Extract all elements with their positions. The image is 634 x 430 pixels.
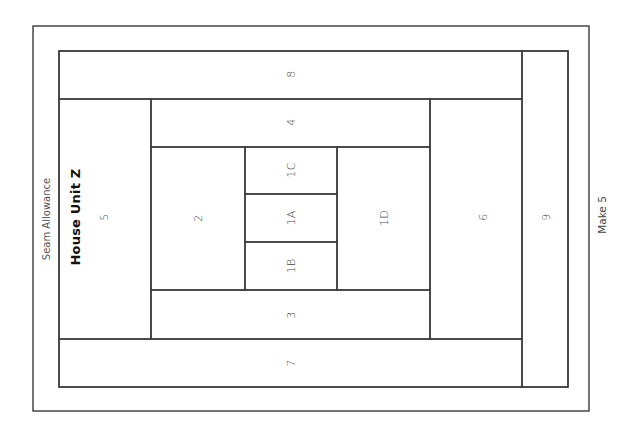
piece-9-label: 9: [541, 213, 552, 220]
piece-1a-label: 1A: [286, 210, 297, 225]
piece-1c-label: 1C: [286, 162, 297, 177]
piece-1d-label: 1D: [379, 210, 390, 226]
piece-4-label: 4: [286, 118, 297, 125]
piece-3-label: 3: [286, 311, 297, 318]
piece-2-label: 2: [193, 214, 204, 221]
block-title: House Unit Z: [69, 169, 82, 266]
piece-7-label: 7: [286, 359, 297, 366]
seam-allowance-border: [33, 26, 589, 411]
quilt-block-diagram: Seam Allowance House Unit Z Make 5 8 9 5…: [0, 0, 634, 430]
piece-8-label: 8: [286, 70, 297, 77]
make-quantity-label: Make 5: [597, 196, 608, 234]
piece-5-label: 5: [99, 213, 110, 220]
block-border: [59, 51, 568, 387]
piece-1b-label: 1B: [286, 259, 297, 274]
seam-allowance-label: Seam Allowance: [42, 178, 52, 260]
piece-6-label: 6: [478, 213, 489, 220]
